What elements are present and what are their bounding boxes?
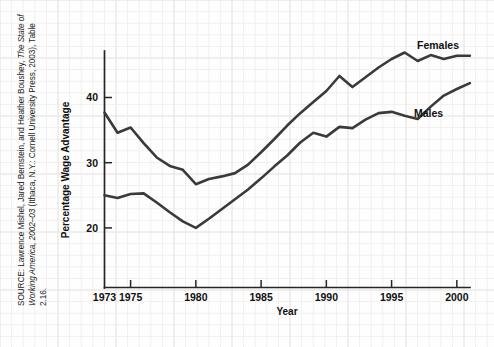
- x-tick-label: 2000: [445, 291, 469, 303]
- x-tick-label: 1975: [119, 291, 143, 303]
- x-tick-label: 1995: [380, 291, 404, 303]
- x-axis-ticks: [131, 280, 457, 288]
- y-tick-label: 20: [86, 222, 98, 234]
- x-axis-tick-labels: 1973197519801985199019952000: [93, 291, 469, 303]
- y-axis-title: Percentage Wage Advantage: [60, 101, 71, 238]
- x-tick-label: 1985: [249, 291, 273, 303]
- series-label-females: Females: [417, 39, 459, 51]
- x-tick-label: 1980: [184, 291, 208, 303]
- series-label-males: Males: [414, 107, 443, 119]
- series-line-males: [105, 83, 470, 228]
- y-axis-tick-labels: 203040: [86, 91, 98, 233]
- figure-container: SOURCE: Lawrence Mishel, Jared Bernstein…: [0, 0, 494, 347]
- y-tick-label: 40: [86, 91, 98, 103]
- x-tick-label: 1973: [93, 291, 117, 303]
- y-tick-label: 30: [86, 157, 98, 169]
- x-axis-title: Year: [276, 306, 297, 317]
- line-chart-plot: 203040 1973197519801985199019952000 Fema…: [0, 0, 494, 347]
- x-tick-label: 1990: [315, 291, 339, 303]
